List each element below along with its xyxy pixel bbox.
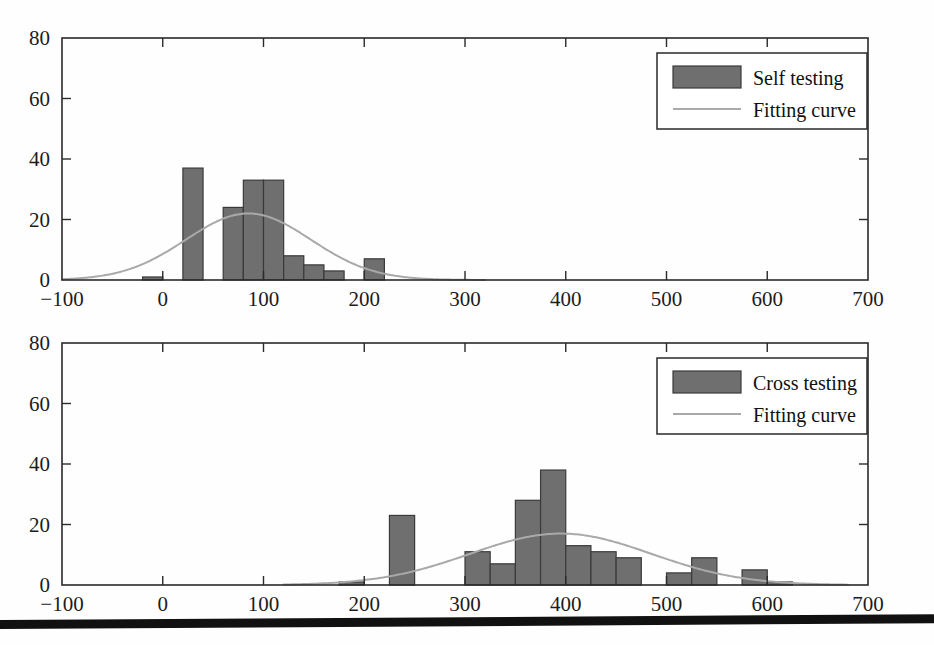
histogram-bar (692, 558, 717, 585)
histogram-bar (742, 570, 767, 585)
x-tick-label: 600 (752, 592, 784, 616)
histogram-bar (183, 168, 203, 280)
histogram-bar (490, 564, 515, 585)
histogram-bar (566, 546, 591, 585)
y-tick-label: 60 (29, 392, 50, 416)
histogram-bar (243, 180, 263, 280)
y-tick-label: 20 (29, 208, 50, 232)
x-tick-label: −100 (40, 592, 83, 616)
histogram-bar (324, 271, 344, 280)
y-tick-label: 40 (29, 147, 50, 171)
self-testing-bars-group (143, 168, 385, 280)
chart-panel-cross-testing: 020406080−1000100200300400500600700 Cros… (0, 305, 934, 625)
figure-page: 020406080−1000100200300400500600700 Self… (0, 0, 934, 645)
legend-self-testing: Self testing Fitting curve (657, 53, 867, 129)
histogram-bar (616, 558, 641, 585)
x-tick-label: 100 (248, 592, 280, 616)
histogram-bar (465, 552, 490, 585)
histogram-bar (304, 265, 324, 280)
y-tick-label: 80 (29, 26, 50, 50)
legend-label-series: Self testing (753, 67, 844, 90)
histogram-bar (667, 573, 692, 585)
legend-label-curve: Fitting curve (753, 404, 856, 427)
histogram-bar (541, 470, 566, 585)
legend-label-curve: Fitting curve (753, 99, 856, 122)
y-tick-label: 20 (29, 513, 50, 537)
y-tick-label: 40 (29, 452, 50, 476)
legend-cross-testing: Cross testing Fitting curve (657, 358, 867, 434)
cross-testing-histogram-svg: 020406080−1000100200300400500600700 Cros… (0, 305, 934, 625)
y-tick-label: 80 (29, 331, 50, 355)
x-tick-label: 0 (158, 592, 169, 616)
x-tick-label: 700 (852, 592, 884, 616)
legend-swatch-series (673, 371, 741, 393)
x-tick-label: 200 (349, 592, 381, 616)
cross-testing-bars-group (339, 470, 792, 585)
histogram-bar (515, 500, 540, 585)
legend-label-series: Cross testing (753, 372, 857, 395)
x-tick-label: 500 (651, 592, 683, 616)
histogram-bar (264, 180, 284, 280)
legend-swatch-series (673, 66, 741, 88)
chart-panel-self-testing: 020406080−1000100200300400500600700 Self… (0, 0, 934, 320)
self-testing-histogram-svg: 020406080−1000100200300400500600700 Self… (0, 0, 934, 320)
histogram-bar (591, 552, 616, 585)
x-tick-label: 300 (449, 592, 481, 616)
x-tick-label: 400 (550, 592, 582, 616)
y-tick-label: 60 (29, 87, 50, 111)
histogram-bar (284, 256, 304, 280)
